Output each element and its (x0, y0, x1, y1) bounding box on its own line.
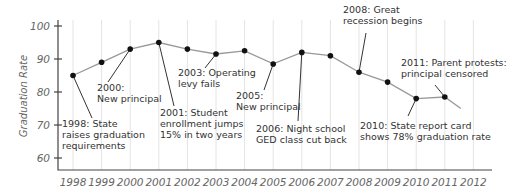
data-point (413, 96, 419, 102)
y-axis-label: Graduation Rate (18, 55, 29, 137)
data-point (442, 94, 448, 100)
x-tick-label: 2008 (346, 176, 373, 188)
x-tick-label: 2003 (203, 176, 230, 188)
data-point (213, 51, 219, 57)
x-tick-label: 2007 (317, 176, 344, 188)
data-point (156, 40, 162, 46)
annotation-2005: 2005:New principal (236, 90, 301, 112)
x-tick-label: 2012 (460, 176, 487, 188)
data-point (299, 50, 305, 56)
data-point (70, 73, 76, 79)
annotation-2001: 2001: Studentenrollment jumps15% in two … (160, 107, 243, 140)
x-tick-label: 2001 (145, 176, 172, 188)
annotation-2008: 2008: Greatrecession begins (343, 4, 423, 26)
annotation-2000: 2000:New principal (97, 82, 162, 104)
x-tick-label: 2006 (288, 176, 315, 188)
x-tick-label: 2009 (374, 176, 401, 188)
data-point (185, 46, 191, 52)
graduation-rate-chart: 60708090100 1998199920002001200220032004… (0, 0, 512, 192)
annotation-leader (73, 76, 92, 119)
y-tick-label: 70 (37, 119, 51, 131)
y-tick-label: 90 (37, 53, 51, 65)
x-tick-label: 2004 (231, 176, 258, 188)
annotation-1998: 1998: Stateraises graduationrequirements (62, 118, 145, 151)
x-axis-tick-labels: 1998199920002001200220032004200520062007… (60, 176, 487, 188)
x-tick-label: 2010 (403, 176, 430, 188)
data-point (385, 79, 391, 85)
x-tick-label: 1999 (88, 176, 115, 188)
data-point (328, 53, 334, 59)
data-point (356, 69, 362, 75)
annotation-2010: 2010: State report cardshows 78% graduat… (360, 120, 491, 142)
x-tick-label: 1998 (60, 176, 87, 188)
annotation-leader (408, 99, 416, 116)
x-tick-label: 2011 (431, 176, 458, 188)
annotation-2011: 2011: Parent protests:principal censored (401, 57, 507, 79)
data-point (270, 61, 276, 67)
data-point (127, 46, 133, 52)
data-point (99, 60, 105, 66)
annotation-leader (359, 33, 366, 72)
y-tick-label: 80 (37, 86, 51, 98)
x-tick-label: 2000 (117, 176, 144, 188)
x-tick-label: 2005 (260, 176, 287, 188)
y-axis-ticks: 60708090100 (30, 20, 62, 164)
x-tick-label: 2002 (174, 176, 201, 188)
y-tick-label: 60 (37, 152, 51, 164)
annotations: 1998: Stateraises graduationrequirements… (62, 4, 507, 151)
y-tick-label: 100 (30, 20, 50, 32)
annotation-2006: 2006: Night schoolGED class cut back (256, 123, 347, 145)
annotation-leader (264, 64, 273, 90)
data-point (242, 48, 248, 54)
